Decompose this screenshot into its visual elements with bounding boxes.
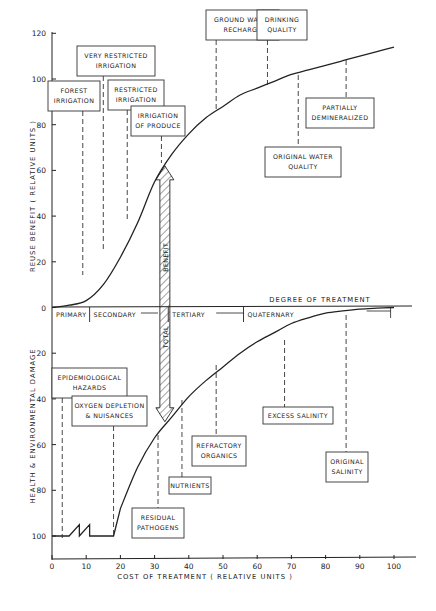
annotation-original-salinity: ORIGINALSALINITY xyxy=(326,315,368,482)
total-benefit-arrow: BENEFITTOTAL xyxy=(156,166,174,422)
annotation-partially-demineralized: PARTIALLYDEMINERALIZED xyxy=(306,60,374,128)
y-tick-label: 100 xyxy=(32,532,47,541)
annotation-forest-irrigation: FORESTIRRIGATION xyxy=(48,81,100,275)
x-tick-label: 100 xyxy=(387,562,402,571)
x-tick-label: 20 xyxy=(116,562,126,571)
x-tick-label: 80 xyxy=(321,562,331,571)
svg-text:QUALITY: QUALITY xyxy=(267,26,297,33)
svg-text:PATHOGENS: PATHOGENS xyxy=(137,524,179,531)
svg-text:VERY RESTRICTED: VERY RESTRICTED xyxy=(84,52,148,59)
svg-text:IRRIGATION: IRRIGATION xyxy=(138,112,179,119)
y-tick-label: 40 xyxy=(36,212,46,221)
treatment-stage-secondary: SECONDARY xyxy=(94,311,137,318)
svg-text:PARTIALLY: PARTIALLY xyxy=(322,104,357,111)
svg-text:DRINKING: DRINKING xyxy=(265,16,300,23)
x-tick-label: 30 xyxy=(150,562,160,571)
arrow-label-total: TOTAL xyxy=(162,326,169,349)
arrow-label-benefit: BENEFIT xyxy=(162,243,169,272)
y-tick-label: 100 xyxy=(32,75,47,84)
svg-text:RESIDUAL: RESIDUAL xyxy=(141,514,176,521)
y-tick-label: 20 xyxy=(36,349,46,358)
y-tick-label: 80 xyxy=(36,121,46,130)
y-tick-label: 20 xyxy=(36,258,46,267)
y-axis-title-lower: HEALTH & ENVIRONMENTAL DAMAGE xyxy=(29,348,37,503)
svg-text:& NUISANCES: & NUISANCES xyxy=(86,412,134,419)
x-tick-label: 40 xyxy=(184,562,194,571)
svg-text:OF PRODUCE: OF PRODUCE xyxy=(135,122,181,129)
y-tick-label: 60 xyxy=(36,166,46,175)
annotation-excess-salinity: EXCESS SALINITY xyxy=(263,340,333,424)
degree-of-treatment-axis xyxy=(52,306,412,307)
svg-text:IRRIGATION: IRRIGATION xyxy=(116,96,157,103)
treatment-stages: PRIMARYSECONDARYTERTIARYQUATERNARY xyxy=(56,307,391,322)
annotations-lower: EPIDEMIOLOGICALHAZARDSOXYGEN DEPLETION& … xyxy=(52,315,368,538)
annotation-very-restricted-irrigation: VERY RESTRICTEDIRRIGATION xyxy=(77,46,155,250)
svg-text:NUTRIENTS: NUTRIENTS xyxy=(170,482,210,489)
svg-text:ORIGINAL: ORIGINAL xyxy=(330,458,364,465)
y-tick-label: 120 xyxy=(32,29,47,38)
y-tick-label: 80 xyxy=(36,486,46,495)
svg-text:DEMINERALIZED: DEMINERALIZED xyxy=(312,114,369,121)
x-tick-label: 60 xyxy=(252,562,262,571)
svg-text:REFRACTORY: REFRACTORY xyxy=(196,442,241,449)
y-axis-title-upper: REUSE BENEFIT ( RELATIVE UNITS ) xyxy=(29,120,37,272)
svg-text:SALINITY: SALINITY xyxy=(331,468,362,475)
treatment-stage-quaternary: QUATERNARY xyxy=(248,311,294,318)
annotation-drinking-quality: DRINKINGQUALITY xyxy=(257,10,307,85)
svg-text:HAZARDS: HAZARDS xyxy=(73,384,107,391)
annotation-refractory-organics: REFRACTORYORGANICS xyxy=(192,365,246,466)
x-tick-label: 10 xyxy=(81,562,91,571)
svg-text:IRRIGATION: IRRIGATION xyxy=(96,62,137,69)
y-tick-label: 0 xyxy=(41,304,46,313)
svg-text:EPIDEMIOLOGICAL: EPIDEMIOLOGICAL xyxy=(58,374,122,381)
x-axis-title: COST OF TREATMENT ( RELATIVE UNITS ) xyxy=(117,573,293,581)
treatment-stage-primary: PRIMARY xyxy=(56,311,86,318)
y-tick-label: 60 xyxy=(36,441,46,450)
svg-text:ORGANICS: ORGANICS xyxy=(201,452,238,459)
svg-text:OXYGEN DEPLETION: OXYGEN DEPLETION xyxy=(74,402,144,409)
chart-canvas: 020406080100120 20406080100 010203040506… xyxy=(0,0,436,611)
svg-text:RECHARGE: RECHARGE xyxy=(223,26,261,33)
svg-text:IRRIGATION: IRRIGATION xyxy=(54,97,95,104)
degree-of-treatment-label: DEGREE OF TREATMENT xyxy=(269,296,371,304)
x-tick-label: 50 xyxy=(218,562,228,571)
annotation-epidemiological-hazards: EPIDEMIOLOGICALHAZARDS xyxy=(52,368,127,538)
svg-text:QUALITY: QUALITY xyxy=(288,163,318,170)
svg-text:FOREST: FOREST xyxy=(60,87,87,94)
svg-text:EXCESS SALINITY: EXCESS SALINITY xyxy=(268,412,328,419)
x-tick-label: 0 xyxy=(50,562,55,571)
svg-text:ORIGINAL WATER: ORIGINAL WATER xyxy=(273,153,333,160)
x-axis xyxy=(52,557,416,559)
treatment-stage-tertiary: TERTIARY xyxy=(171,311,205,318)
x-tick-label: 70 xyxy=(287,562,297,571)
x-tick-label: 90 xyxy=(355,562,365,571)
annotations-upper: FORESTIRRIGATIONVERY RESTRICTEDIRRIGATIO… xyxy=(48,10,374,275)
annotation-restricted-irrigation: RESTRICTEDIRRIGATION xyxy=(108,80,164,220)
y-tick-label: 40 xyxy=(36,395,46,404)
svg-text:RESTRICTED: RESTRICTED xyxy=(114,86,158,93)
annotation-irrigation-of-produce: IRRIGATIONOF PRODUCE xyxy=(131,106,185,163)
